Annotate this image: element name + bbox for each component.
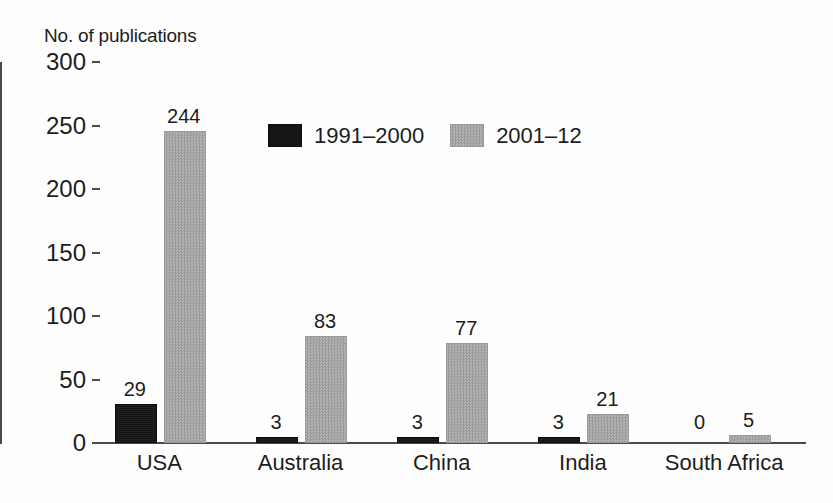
y-tick-mark [92, 252, 100, 254]
category-label: India [559, 452, 607, 474]
bar-value-label: 21 [596, 389, 618, 409]
y-tick-mark [92, 61, 100, 63]
y-axis-title: No. of publications [44, 25, 197, 47]
bar-value-label: 83 [314, 311, 336, 331]
chart-legend: 1991–2000 2001–12 [268, 124, 582, 147]
legend-label-0: 1991–2000 [314, 125, 424, 147]
legend-entry-1: 2001–12 [450, 124, 582, 147]
y-tick-mark [92, 125, 100, 127]
legend-entry-0: 1991–2000 [268, 124, 424, 147]
bar-group: 377 [397, 62, 486, 443]
bar-group: 29244 [115, 62, 204, 443]
bar[interactable] [587, 414, 629, 443]
y-tick-label: 50 [0, 368, 86, 392]
y-tick-label: 0 [0, 431, 86, 455]
bar[interactable] [397, 437, 439, 443]
legend-label-1: 2001–12 [496, 125, 582, 147]
y-tick-mark [92, 442, 100, 444]
bar[interactable] [538, 437, 580, 443]
bar[interactable] [115, 404, 157, 443]
bar-value-label: 5 [743, 410, 754, 430]
y-tick-label: 200 [0, 177, 86, 201]
bar-value-label: 3 [270, 412, 281, 432]
category-label: China [413, 452, 470, 474]
category-label: Australia [258, 452, 344, 474]
legend-swatch-hatched-icon [450, 124, 484, 147]
bar[interactable] [446, 343, 488, 443]
bar-value-label: 3 [412, 412, 423, 432]
y-tick-label: 150 [0, 241, 86, 265]
bar-group: 05 [680, 62, 769, 443]
bar[interactable] [305, 336, 347, 443]
y-tick-label: 100 [0, 304, 86, 328]
bar-value-label: 77 [455, 318, 477, 338]
publications-bar-chart: No. of publications 050100150200250300 2… [0, 0, 833, 503]
legend-swatch-dark-icon [268, 124, 302, 147]
category-label: USA [137, 452, 182, 474]
category-label: South Africa [665, 452, 784, 474]
bar[interactable] [256, 437, 298, 443]
bar-value-label: 3 [553, 412, 564, 432]
y-tick-label: 250 [0, 114, 86, 138]
bar-value-label: 0 [694, 412, 705, 432]
y-tick-mark [92, 188, 100, 190]
y-tick-label: 300 [0, 50, 86, 74]
bar-group: 321 [538, 62, 627, 443]
y-tick-mark [92, 379, 100, 381]
bar-group: 383 [256, 62, 345, 443]
bar[interactable] [729, 435, 771, 443]
bar-value-label: 244 [167, 106, 200, 126]
bar[interactable] [164, 131, 206, 443]
y-tick-mark [92, 315, 100, 317]
bar-value-label: 29 [124, 379, 146, 399]
plot-area: 2924438337732105 [100, 62, 806, 443]
